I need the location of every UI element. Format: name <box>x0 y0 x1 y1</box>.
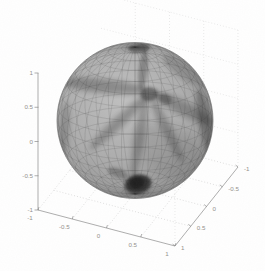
x-tick-mark <box>107 225 108 228</box>
axes-3d-sphere-plot: 1-110.5-0.50.5000-0.50.5-0.5-11-1 <box>0 0 265 271</box>
tick-label: 0 <box>213 205 217 212</box>
y-tick-mark <box>220 185 222 187</box>
y-tick-mark <box>204 205 206 207</box>
tick-label: -1 <box>27 206 33 213</box>
tick-label: 0 <box>97 232 101 239</box>
tick-label: 1 <box>165 250 169 257</box>
tick-label: 0.5 <box>128 241 137 248</box>
tick-label: -0.5 <box>59 223 70 230</box>
tick-label: -0.5 <box>228 185 239 192</box>
sphere-surface <box>56 42 222 198</box>
figure-window: 1-110.5-0.50.5000-0.50.5-0.5-11-1 <box>0 0 265 271</box>
tick-label: -0.5 <box>22 172 33 179</box>
y-tick-mark <box>188 224 190 226</box>
x-tick-mark <box>72 216 73 219</box>
tick-label: 0 <box>30 138 34 145</box>
tick-label: 1 <box>181 244 185 251</box>
tick-label: 0.5 <box>24 103 33 110</box>
tick-label: 0.5 <box>197 224 206 231</box>
x-tick-mark <box>141 234 142 237</box>
y-tick-mark <box>236 165 238 167</box>
tick-label: 1 <box>30 69 34 76</box>
tick-label: -1 <box>27 214 33 221</box>
tick-label: -1 <box>244 165 250 172</box>
